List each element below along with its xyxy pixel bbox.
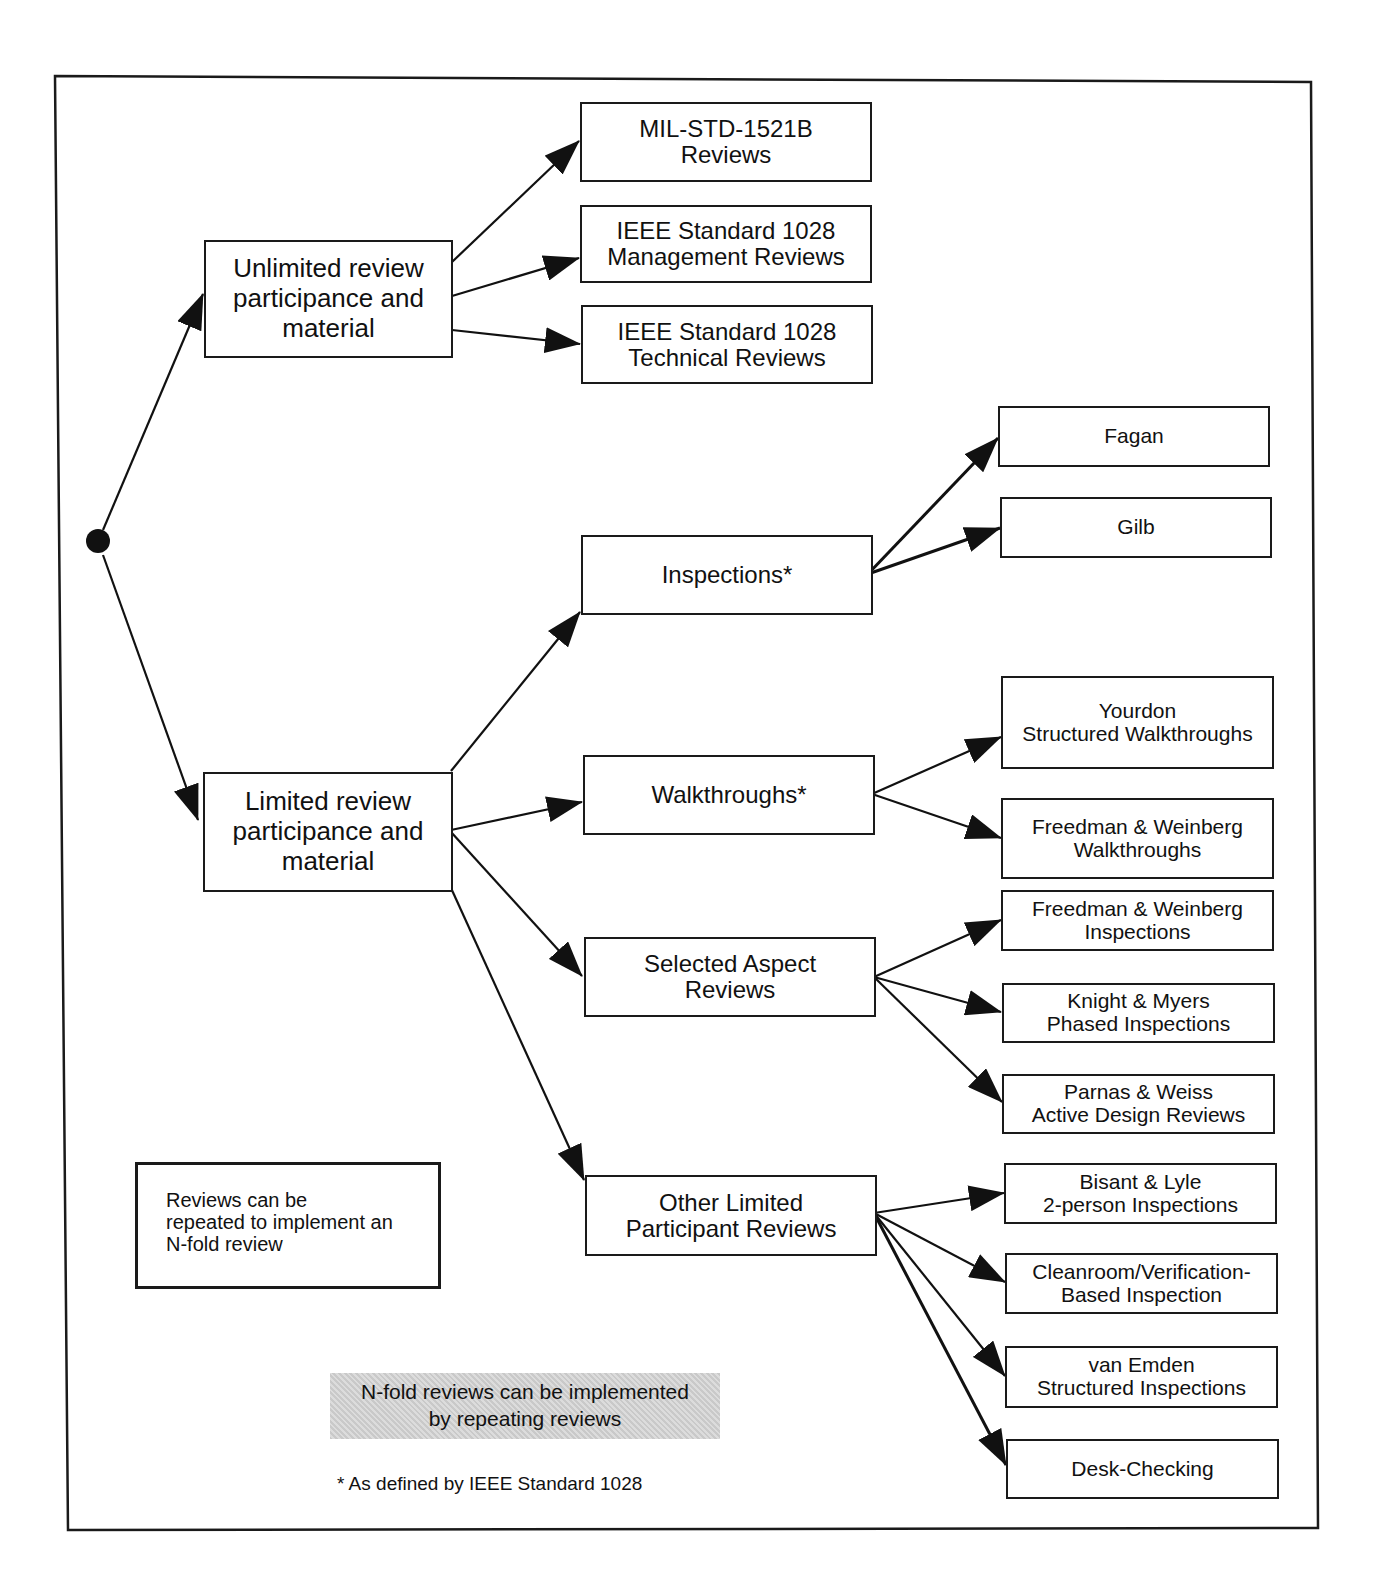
node-inspections: Inspections*	[581, 535, 873, 615]
node-van-emden-structured-inspections: van Emden Structured Inspections	[1005, 1346, 1278, 1408]
node-label: Freedman & Weinberg Inspections	[1032, 898, 1243, 943]
root-node-dot	[86, 529, 110, 553]
shaded-note-text: N-fold reviews can be implemented by rep…	[330, 1379, 720, 1433]
node-label: Parnas & Weiss Active Design Reviews	[1032, 1081, 1246, 1126]
node-label: Cleanroom/Verification- Based Inspection	[1032, 1261, 1250, 1306]
node-ieee-management-reviews: IEEE Standard 1028 Management Reviews	[580, 205, 872, 283]
node-label: IEEE Standard 1028 Management Reviews	[607, 218, 844, 270]
node-knight-myers-phased-inspections: Knight & Myers Phased Inspections	[1002, 983, 1275, 1043]
node-yourdon-structured-walkthroughs: Yourdon Structured Walkthroughs	[1001, 676, 1274, 769]
node-cleanroom-verification-based-inspection: Cleanroom/Verification- Based Inspection	[1005, 1253, 1278, 1314]
node-label: Knight & Myers Phased Inspections	[1047, 990, 1230, 1035]
node-bisant-lyle-2-person-inspections: Bisant & Lyle 2-person Inspections	[1004, 1163, 1277, 1224]
node-label: Bisant & Lyle 2-person Inspections	[1043, 1171, 1238, 1216]
node-label: Limited review participance and material	[233, 787, 424, 877]
node-selected-aspect-reviews: Selected Aspect Reviews	[584, 937, 876, 1017]
node-limited-review: Limited review participance and material	[203, 772, 453, 892]
node-walkthroughs: Walkthroughs*	[583, 755, 875, 835]
node-label: Fagan	[1104, 425, 1164, 448]
note-text: Reviews can be repeated to implement an …	[166, 1189, 438, 1255]
node-label: Gilb	[1117, 516, 1154, 539]
node-label: IEEE Standard 1028 Technical Reviews	[618, 319, 837, 371]
node-freedman-weinberg-walkthroughs: Freedman & Weinberg Walkthroughs	[1001, 798, 1274, 879]
node-label: Inspections*	[662, 562, 793, 588]
repeat-review-note-box: Reviews can be repeated to implement an …	[135, 1162, 441, 1289]
node-parnas-weiss-active-design-reviews: Parnas & Weiss Active Design Reviews	[1002, 1074, 1275, 1134]
node-gilb: Gilb	[1000, 497, 1272, 558]
node-label: MIL-STD-1521B Reviews	[639, 116, 812, 168]
node-label: Freedman & Weinberg Walkthroughs	[1032, 816, 1243, 861]
n-fold-shaded-note: N-fold reviews can be implemented by rep…	[330, 1373, 720, 1439]
node-other-limited-participant-reviews: Other Limited Participant Reviews	[585, 1175, 877, 1256]
node-label: Desk-Checking	[1071, 1458, 1213, 1481]
node-label: Other Limited Participant Reviews	[626, 1190, 837, 1242]
node-mil-std-1521b: MIL-STD-1521B Reviews	[580, 102, 872, 182]
node-label: Selected Aspect Reviews	[644, 951, 816, 1003]
node-label: van Emden Structured Inspections	[1037, 1354, 1246, 1399]
node-label: Walkthroughs*	[651, 782, 806, 808]
node-label: Yourdon Structured Walkthroughs	[1022, 700, 1252, 745]
node-freedman-weinberg-inspections: Freedman & Weinberg Inspections	[1001, 890, 1274, 951]
footnote: * As defined by IEEE Standard 1028	[337, 1473, 642, 1495]
node-desk-checking: Desk-Checking	[1006, 1439, 1279, 1499]
node-fagan: Fagan	[998, 406, 1270, 467]
node-unlimited-review: Unlimited review participance and materi…	[204, 240, 453, 358]
node-ieee-technical-reviews: IEEE Standard 1028 Technical Reviews	[581, 305, 873, 384]
node-label: Unlimited review participance and materi…	[233, 254, 424, 344]
